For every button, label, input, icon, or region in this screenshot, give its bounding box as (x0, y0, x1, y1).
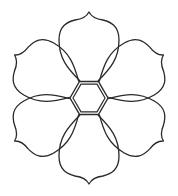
flower-drawing (0, 0, 178, 196)
flower-svg (0, 0, 178, 196)
flower-group (0, 12, 178, 184)
petal-bottom (59, 115, 119, 184)
petal-top (59, 12, 119, 81)
